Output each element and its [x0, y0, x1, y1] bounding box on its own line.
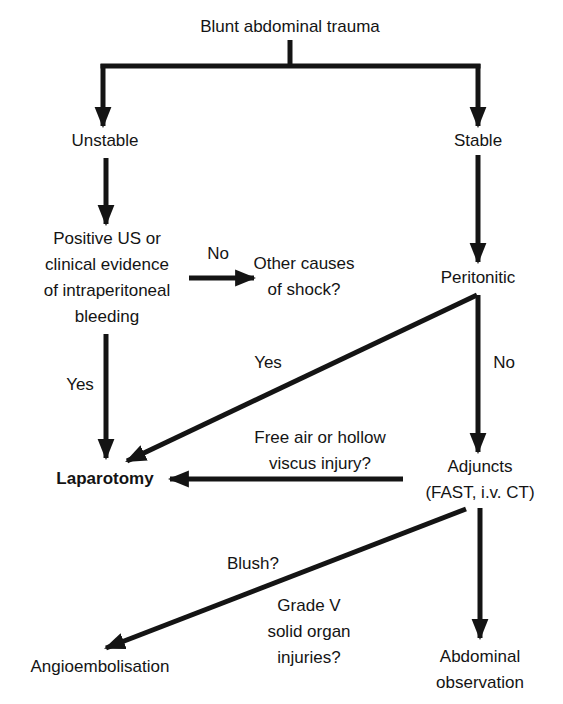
node-stable: Stable	[428, 128, 528, 154]
node-angioembolisation: Angioembolisation	[10, 654, 190, 680]
edge-label-no-other-causes: No	[198, 241, 238, 267]
edge-label-yes-peritonitic: Yes	[246, 350, 290, 376]
edge-label-blush: Blush?	[218, 551, 288, 577]
node-adjuncts: Adjuncts (FAST, i.v. CT)	[405, 454, 555, 506]
node-laparotomy: Laparotomy	[40, 466, 170, 492]
node-blunt-abdominal-trauma: Blunt abdominal trauma	[170, 14, 410, 40]
edge-label-free-air: Free air or hollow viscus injury?	[225, 425, 415, 477]
node-peritonitic: Peritonitic	[418, 265, 538, 291]
node-unstable: Unstable	[50, 128, 160, 154]
node-positive-us: Positive US or clinical evidence of intr…	[18, 226, 196, 330]
node-other-causes-of-shock: Other causes of shock?	[234, 251, 374, 303]
node-abdominal-observation: Abdominal observation	[418, 644, 542, 696]
flowchart: Blunt abdominal trauma Unstable Stable P…	[0, 0, 563, 704]
edge-label-grade-v: Grade V solid organ injuries?	[244, 593, 374, 671]
edge-label-yes-laparotomy-left: Yes	[58, 372, 102, 398]
edge-label-no-peritonitic: No	[484, 350, 524, 376]
